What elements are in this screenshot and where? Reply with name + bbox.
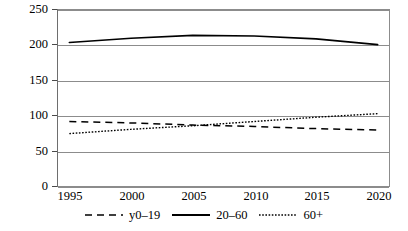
legend-item-60plus: 60+ [259,209,323,222]
x-axis-label: 2020 [357,190,401,203]
legend-label: 60+ [303,209,323,222]
series-line-y0-19 [69,122,377,131]
series-container [57,9,390,187]
x-axis-label: 2005 [172,190,216,203]
y-axis-label: 100 [4,109,48,122]
x-axis-label: 2000 [110,190,154,203]
x-axis-label: 1995 [48,190,92,203]
legend-item-20-60: 20–60 [172,209,247,222]
solid-line-swatch [172,210,210,220]
y-axis-label: 50 [4,145,48,158]
series-line-60plus [69,114,377,134]
y-axis-label: 200 [4,38,48,51]
series-line-20-60 [69,35,377,44]
x-axis-label: 2010 [234,190,278,203]
y-axis-label: 150 [4,74,48,87]
chart-legend: y0–19 20–60 60+ [0,205,408,225]
dotted-line-swatch [259,210,297,220]
x-axis-label: 2015 [295,190,339,203]
legend-label: 20–60 [216,209,247,222]
legend-item-y0-19: y0–19 [85,209,160,222]
dashed-line-swatch [85,210,123,220]
line-chart: 250 200 150 100 50 0 1995 2000 2005 2010… [0,0,408,231]
legend-label: y0–19 [129,209,160,222]
y-axis-label: 0 [4,180,48,193]
y-axis-label: 250 [4,3,48,16]
